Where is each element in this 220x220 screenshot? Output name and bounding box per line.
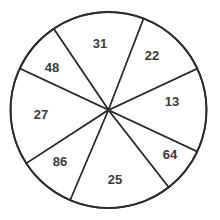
pie-slice-label-22: 22 [145, 48, 159, 63]
pie-slice-label-25: 25 [108, 172, 122, 187]
pie-slice-label-31: 31 [93, 36, 107, 51]
pie-slice-label-64: 64 [163, 147, 178, 162]
pie-slice-label-27: 27 [34, 107, 48, 122]
pie-slice-label-86: 86 [53, 154, 67, 169]
pie-slice-label-13: 13 [165, 94, 179, 109]
pie-chart: 3148278625641322 [0, 0, 220, 220]
pie-chart-canvas: 3148278625641322 [0, 0, 220, 220]
pie-slice-label-48: 48 [45, 60, 59, 75]
